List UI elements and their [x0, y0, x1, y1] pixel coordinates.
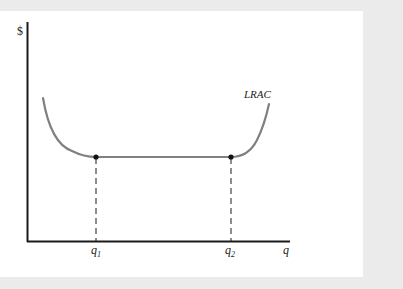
q1-point — [93, 154, 98, 159]
q2-label: q2 — [225, 243, 235, 259]
lrac-chart: $ LRAC q1 q2 q — [0, 0, 403, 289]
q1-label-sub: 1 — [97, 250, 101, 259]
q1-label: q1 — [91, 243, 101, 259]
q2-point — [228, 154, 233, 159]
x-axis-label: q — [283, 243, 289, 257]
q2-label-sub: 2 — [231, 250, 235, 259]
lrac-label: LRAC — [243, 88, 272, 100]
lrac-curve — [43, 98, 269, 157]
y-axis-label: $ — [17, 24, 23, 38]
